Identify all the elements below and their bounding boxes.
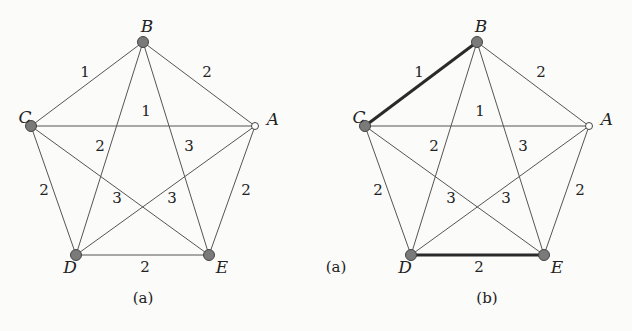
edge-weight-label: 2 xyxy=(429,137,439,155)
node-label-c: C xyxy=(352,107,365,127)
node-a xyxy=(586,123,593,130)
edge-weight-label: 2 xyxy=(39,181,49,199)
edge-weight-label: 1 xyxy=(414,63,424,81)
edge-weight-label: 3 xyxy=(184,137,194,155)
node-b xyxy=(138,37,149,48)
node-label-e: E xyxy=(215,257,229,277)
edge-b-e xyxy=(143,42,209,255)
edge-weight-label: 2 xyxy=(575,181,585,199)
edge-b-a xyxy=(143,42,255,126)
weighted-graph-figure: 1212322332ABCDE(a) 1212322332ABCDE(b)(a) xyxy=(0,0,632,331)
edge-c-d xyxy=(365,126,411,255)
edge-weight-label: 3 xyxy=(446,189,456,207)
panel-caption: (a) xyxy=(133,289,154,307)
node-a xyxy=(252,123,259,130)
edge-weight-label: 2 xyxy=(536,63,546,81)
edge-weight-label: 3 xyxy=(112,189,122,207)
node-label-d: D xyxy=(62,257,77,277)
edge-weight-label: 3 xyxy=(518,137,528,155)
node-label-c: C xyxy=(18,107,31,127)
edge-weight-label: 1 xyxy=(80,63,90,81)
edge-c-b xyxy=(31,42,143,126)
edge-weight-label: 1 xyxy=(475,102,485,120)
node-label-a: A xyxy=(265,109,279,129)
node-e xyxy=(204,250,215,261)
edge-weight-label: 1 xyxy=(141,102,151,120)
panel-caption: (b) xyxy=(476,289,497,307)
edge-weight-label: 2 xyxy=(95,137,105,155)
node-label-a: A xyxy=(599,109,613,129)
node-e xyxy=(539,250,550,261)
edge-b-a xyxy=(477,42,589,126)
node-label-b: B xyxy=(474,16,488,36)
panel-a-graph: 1212322332ABCDE(a) xyxy=(18,16,279,308)
edge-c-b xyxy=(365,42,477,126)
edge-weight-label: 2 xyxy=(373,181,383,199)
edge-c-d xyxy=(31,126,76,255)
node-label-e: E xyxy=(550,257,564,277)
edge-weight-label: 2 xyxy=(202,63,212,81)
panel-b-graph: 1212322332ABCDE(b)(a) xyxy=(326,16,613,308)
edge-weight-label: 2 xyxy=(241,181,251,199)
edge-weight-label: 3 xyxy=(167,189,177,207)
node-label-b: B xyxy=(140,16,154,36)
edge-weight-label: 2 xyxy=(140,258,150,276)
edge-b-e xyxy=(477,42,544,255)
node-b xyxy=(472,37,483,48)
edge-weight-label: 3 xyxy=(501,189,511,207)
side-label: (a) xyxy=(326,258,347,276)
node-label-d: D xyxy=(397,257,412,277)
edge-weight-label: 2 xyxy=(474,258,484,276)
